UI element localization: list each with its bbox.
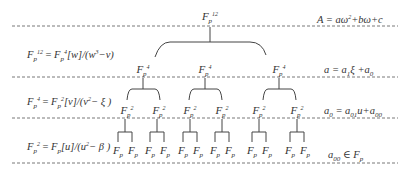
eq-sub: p	[61, 55, 65, 63]
eq-sub: p	[360, 155, 364, 163]
node-letter: F	[193, 144, 200, 156]
node-fp2: Fp2	[290, 105, 303, 119]
node-sub: p	[185, 151, 189, 159]
right-equation-a0: a0 = a01u+a00	[324, 106, 382, 119]
node-letter: F	[202, 10, 209, 22]
node-sub: p	[120, 151, 124, 159]
node-sub: p	[152, 151, 156, 159]
right-equation-a: a = a1ξ +a0	[324, 65, 373, 78]
node-letter: F	[113, 144, 120, 156]
node-fp: Fp	[262, 145, 272, 159]
node-letter: F	[252, 104, 259, 116]
node-fp2: Fp2	[152, 105, 165, 119]
node-sub: p	[269, 151, 273, 159]
left-equation-fp2: Fp2 = Fp[u]/(u2− β )	[27, 141, 110, 155]
node-sup: 2	[226, 105, 229, 111]
node-letter: F	[247, 144, 254, 156]
node-sup: 12	[212, 11, 218, 17]
eq-sub: 00	[375, 111, 382, 119]
node-sub: p	[307, 151, 311, 159]
left-equation-fp4: Fp4 = Fp2[v]/(v2− ξ )	[27, 96, 111, 110]
eq-part: =	[40, 96, 51, 107]
node-sub: p	[279, 70, 283, 78]
node-sub: p	[292, 151, 296, 159]
node-letter: F	[210, 144, 217, 156]
eq-part: =	[43, 49, 54, 60]
node-letter: F	[215, 104, 222, 116]
node-sub: p	[143, 70, 147, 78]
node-letter: F	[178, 144, 185, 156]
node-fp2: Fp2	[183, 105, 196, 119]
node-sub: p	[167, 151, 171, 159]
node-fp: Fp	[225, 145, 235, 159]
eq-part: ξ +a	[350, 64, 369, 75]
eq-part: [w]/(w	[67, 49, 96, 60]
eq-part: −v)	[99, 49, 114, 60]
eq-sub: p	[33, 102, 37, 110]
node-letter: F	[120, 104, 127, 116]
eq-sub: p	[33, 147, 37, 155]
node-fp: Fp	[178, 145, 188, 159]
eq-part: u+a	[357, 105, 375, 116]
node-fp: Fp	[210, 145, 220, 159]
eq-part: ∈ F	[340, 149, 359, 160]
node-sup: 2	[194, 105, 197, 111]
node-letter: F	[262, 144, 269, 156]
node-fp: Fp	[285, 145, 295, 159]
node-letter: F	[136, 63, 143, 75]
node-letter: F	[183, 104, 190, 116]
node-fp: Fp	[160, 145, 170, 159]
node-sub: p	[222, 111, 226, 119]
node-fp: Fp	[247, 145, 257, 159]
node-fp12: Fp12	[202, 11, 218, 25]
node-letter: F	[285, 144, 292, 156]
eq-part: =	[40, 141, 51, 152]
node-sub: p	[205, 70, 209, 78]
eq-part: − β )	[89, 141, 110, 152]
eq-part: − ξ )	[91, 96, 111, 107]
eq-part: a = a	[324, 64, 347, 75]
right-equation-a00: a00 ∈ Fp	[328, 150, 363, 163]
eq-sub: p	[58, 102, 62, 110]
node-letter: F	[225, 144, 232, 156]
node-fp4: Fp4	[198, 64, 211, 78]
node-sub: p	[217, 151, 221, 159]
node-fp2: Fp2	[215, 105, 228, 119]
eq-part: [v]/(v	[64, 96, 88, 107]
node-letter: F	[152, 104, 159, 116]
node-letter: F	[145, 144, 152, 156]
node-sub: p	[127, 111, 131, 119]
field-tower-diagram: Fp12 Fp4 Fp4 Fp4 Fp2 Fp2 Fp2 Fp2 Fp2 Fp2…	[0, 0, 409, 175]
eq-part: +bω+c	[351, 14, 383, 25]
node-sub: p	[259, 111, 263, 119]
node-sup: 2	[131, 105, 134, 111]
node-sup: 2	[263, 105, 266, 111]
node-fp2: Fp2	[252, 105, 265, 119]
node-fp: Fp	[145, 145, 155, 159]
tree-edges	[118, 27, 304, 142]
node-sub: p	[297, 111, 301, 119]
node-fp: Fp	[193, 145, 203, 159]
node-letter: F	[290, 104, 297, 116]
node-sub: p	[200, 151, 204, 159]
node-letter: F	[198, 63, 205, 75]
node-letter: F	[300, 144, 307, 156]
eq-sub: p	[33, 55, 37, 63]
node-sup: 4	[209, 64, 212, 70]
right-equation-A: A = aω2+bω+c	[317, 14, 383, 26]
node-fp4: Fp4	[272, 64, 285, 78]
node-sub: p	[209, 17, 213, 25]
eq-part: A = aω	[317, 14, 348, 25]
node-sup: 2	[301, 105, 304, 111]
node-sup: 4	[283, 64, 286, 70]
node-sup: 2	[163, 105, 166, 111]
node-sub: p	[232, 151, 236, 159]
node-letter: F	[160, 144, 167, 156]
node-fp4: Fp4	[136, 64, 149, 78]
node-sup: 4	[147, 64, 150, 70]
node-sub: p	[135, 151, 139, 159]
eq-sub: 0	[370, 70, 374, 78]
node-sub: p	[254, 151, 258, 159]
node-fp: Fp	[128, 145, 138, 159]
node-letter: F	[272, 63, 279, 75]
